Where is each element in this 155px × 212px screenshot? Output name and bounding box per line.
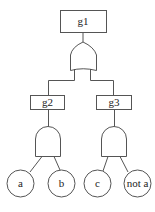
- basic-event-b: b: [48, 170, 75, 197]
- basic-event-label-not-a: not a: [127, 177, 149, 189]
- and-gate-icon: [102, 127, 127, 157]
- connector-and-c: [103, 157, 108, 172]
- connector-or-g2: [49, 81, 75, 96]
- event-label-g3: g3: [109, 96, 121, 108]
- and-gate-icon: [36, 127, 61, 157]
- event-box-g3: g3: [97, 96, 132, 110]
- or-gate-icon: [71, 42, 97, 71]
- connector-and-not-a: [120, 157, 128, 173]
- basic-event-label-b: b: [59, 177, 65, 189]
- connector-or-g3: [91, 81, 114, 96]
- event-box-g2: g2: [31, 96, 65, 110]
- connector-and-a: [30, 157, 42, 173]
- event-label-g1: g1: [78, 15, 89, 27]
- event-box-g1: g1: [61, 11, 107, 33]
- basic-event-label-a: a: [18, 177, 23, 189]
- basic-event-label-c: c: [95, 177, 100, 189]
- basic-event-c: c: [84, 170, 111, 197]
- basic-event-not-a: not a: [124, 170, 151, 197]
- basic-event-a: a: [7, 170, 34, 197]
- fault-tree-diagram: g1 g2 g3 a b c not a: [0, 0, 155, 212]
- connector-and-b: [54, 157, 60, 171]
- event-label-g2: g2: [42, 96, 53, 108]
